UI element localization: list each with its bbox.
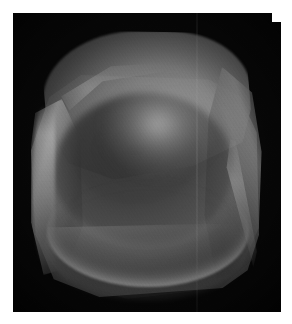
render-plate [13,13,281,312]
film-grain-overlay [13,13,281,312]
plate-corner-notch [272,13,281,22]
page-canvas [0,0,292,324]
